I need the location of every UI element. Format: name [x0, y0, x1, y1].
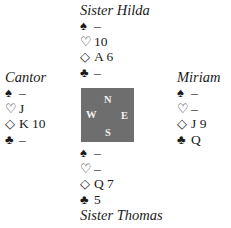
compass-north-label: N: [104, 94, 112, 105]
north-hearts-cards: 10: [94, 34, 108, 49]
club-icon: ♣: [177, 132, 191, 148]
west-diamonds: ◇K 10: [5, 116, 46, 132]
compass-box: N W E S: [81, 88, 134, 142]
club-icon: ♣: [5, 132, 19, 148]
west-player-name: Cantor: [5, 69, 46, 85]
east-hand: Miriam ♠– ♡– ◇J 9 ♣Q: [177, 69, 221, 147]
east-clubs: ♣Q: [177, 132, 221, 148]
south-clubs-cards: 5: [94, 192, 101, 207]
south-player-name: Sister Thomas: [80, 207, 163, 223]
north-diamonds: ◇A 6: [80, 49, 150, 65]
spade-icon: ♠: [80, 145, 94, 161]
north-spades-cards: –: [94, 18, 101, 33]
south-hearts-cards: –: [94, 161, 101, 176]
heart-icon: ♡: [80, 161, 94, 177]
east-clubs-cards: Q: [191, 132, 201, 147]
east-player-name: Miriam: [177, 69, 221, 85]
north-hand: Sister Hilda ♠– ♡10 ◇A 6 ♣–: [80, 2, 150, 80]
north-clubs-cards: –: [94, 65, 101, 80]
south-spades-cards: –: [94, 145, 101, 160]
east-spades-cards: –: [191, 85, 198, 100]
west-hearts: ♡J: [5, 101, 46, 117]
east-diamonds: ◇J 9: [177, 116, 221, 132]
north-hearts: ♡10: [80, 34, 150, 50]
east-diamonds-cards: J 9: [191, 116, 206, 131]
south-diamonds: ◇Q 7: [80, 176, 163, 192]
west-diamonds-cards: K 10: [19, 116, 46, 131]
heart-icon: ♡: [5, 101, 19, 117]
north-spades: ♠–: [80, 18, 150, 34]
east-hearts: ♡–: [177, 101, 221, 117]
west-hearts-cards: J: [19, 101, 24, 116]
east-hearts-cards: –: [191, 101, 198, 116]
south-hearts: ♡–: [80, 161, 163, 177]
spade-icon: ♠: [5, 85, 19, 101]
heart-icon: ♡: [177, 101, 191, 117]
west-clubs-cards: –: [19, 132, 26, 147]
west-hand: Cantor ♠– ♡J ◇K 10 ♣–: [5, 69, 46, 147]
club-icon: ♣: [80, 192, 94, 208]
south-spades: ♠–: [80, 145, 163, 161]
diamond-icon: ◇: [5, 116, 19, 132]
compass-east-label: E: [121, 110, 128, 121]
north-clubs: ♣–: [80, 65, 150, 81]
diamond-icon: ◇: [177, 116, 191, 132]
west-spades-cards: –: [19, 85, 26, 100]
south-diamonds-cards: Q 7: [94, 176, 114, 191]
east-spades: ♠–: [177, 85, 221, 101]
compass-south-label: S: [105, 127, 111, 138]
club-icon: ♣: [80, 65, 94, 81]
compass-west-label: W: [86, 109, 97, 120]
south-clubs: ♣5: [80, 192, 163, 208]
diamond-icon: ◇: [80, 49, 94, 65]
heart-icon: ♡: [80, 34, 94, 50]
diamond-icon: ◇: [80, 176, 94, 192]
west-spades: ♠–: [5, 85, 46, 101]
spade-icon: ♠: [177, 85, 191, 101]
spade-icon: ♠: [80, 18, 94, 34]
west-clubs: ♣–: [5, 132, 46, 148]
north-player-name: Sister Hilda: [80, 2, 150, 18]
north-diamonds-cards: A 6: [94, 49, 113, 64]
south-hand: ♠– ♡– ◇Q 7 ♣5 Sister Thomas: [80, 145, 163, 223]
